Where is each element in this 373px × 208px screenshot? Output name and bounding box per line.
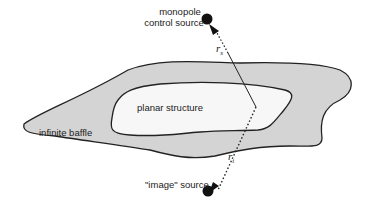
image-source-label: "image" source (145, 179, 209, 190)
rs-label-sub: s (220, 49, 223, 57)
planar-structure-label: planar structure (137, 102, 203, 113)
control-source-label-line2: control source (138, 17, 210, 28)
control-source-label: monopole control source (150, 6, 210, 28)
rs-label: rs (216, 42, 223, 57)
infinite-baffle-label: infinite baffle (39, 127, 92, 138)
ri-label: ri (228, 150, 234, 165)
control-source-label-line1: monopole (150, 6, 210, 17)
ri-label-sub: i (232, 157, 234, 165)
